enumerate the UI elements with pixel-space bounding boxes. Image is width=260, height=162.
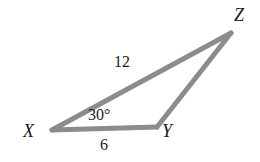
vertex-label-x: X [23, 122, 34, 140]
side-length-label-xz: 12 [114, 54, 130, 70]
triangle-figure: X Y Z 12 6 30° [0, 0, 260, 162]
triangle-outline [52, 33, 231, 130]
side-xy-line [52, 127, 157, 130]
triangle-drawing [0, 0, 260, 162]
vertex-label-y: Y [162, 122, 172, 140]
side-yz-line [157, 33, 231, 127]
side-xz-line [52, 33, 231, 130]
side-length-label-xy: 6 [100, 137, 108, 153]
angle-measure-label-x: 30° [88, 107, 110, 123]
vertex-label-z: Z [234, 6, 244, 24]
